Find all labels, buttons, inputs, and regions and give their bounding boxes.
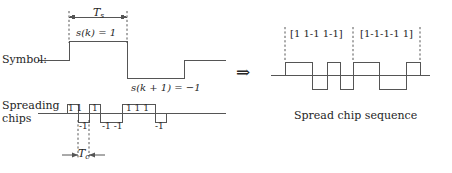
chip-period-subscript: c	[85, 152, 89, 161]
spread-sequence-group	[271, 62, 430, 89]
chip-high-label-2: 1	[92, 104, 98, 113]
ts-arrow-head-left	[69, 14, 75, 19]
symbol-k-value-label: s(k) = 1	[76, 28, 116, 38]
symbol-period-subscript: s	[100, 11, 104, 20]
spreading-chips-label-line1: Spreading	[2, 100, 60, 111]
symbol-waveform-group	[38, 14, 226, 78]
symbol-square-wave	[38, 41, 226, 78]
spread-bracket-label-1: [1 1-1 1-1]	[290, 29, 343, 39]
spread-bracket-label-2: [1-1-1-1 1]	[360, 29, 413, 39]
spread-sequence-caption: Spread chip sequence	[294, 110, 417, 121]
chip-high-label-1: 1 1	[68, 104, 82, 113]
chip-low-label-2: -1 -1	[102, 122, 122, 131]
dsss-spreading-figure: Ts s(k) = 1 Symbol: s(k + 1) = −1 Spread…	[0, 0, 452, 173]
chip-low-label-1: -1	[79, 122, 88, 131]
symbol-k1-value-label: s(k + 1) = −1	[131, 83, 201, 93]
chip-period-label: Tc	[78, 148, 90, 161]
symbol-axis-label: Symbol:	[2, 54, 47, 65]
ts-arrow-head-right	[121, 14, 127, 19]
chip-high-label-3: 1 1 1	[126, 104, 149, 113]
symbol-period-label: Ts	[93, 7, 104, 20]
implies-arrow-icon: ⇒	[236, 64, 250, 81]
figure-vector-canvas	[0, 0, 452, 173]
spreading-chips-label-line2: chips	[2, 113, 31, 124]
chip-low-label-3: -1	[155, 122, 164, 131]
